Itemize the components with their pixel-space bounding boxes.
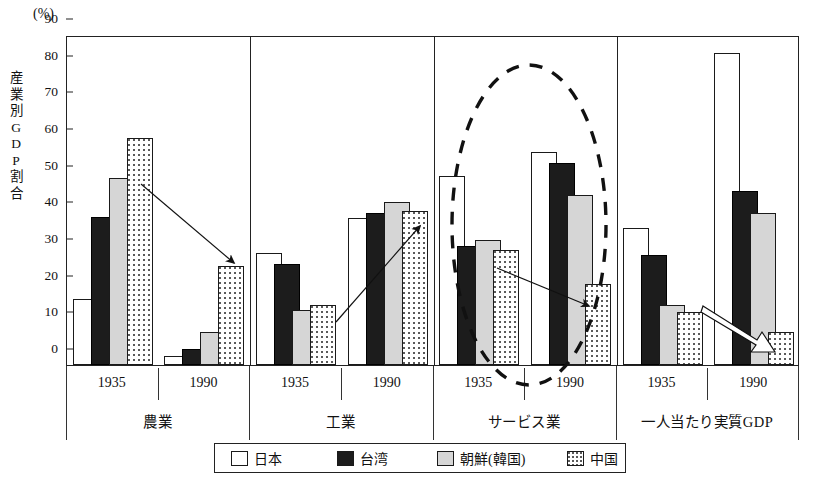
- year-tick-line: [707, 368, 708, 400]
- bar-cn: [585, 284, 611, 365]
- bar-cn: [218, 266, 244, 365]
- year-label: 1935: [98, 375, 126, 391]
- y-axis-tick-mark: [66, 55, 73, 56]
- year-tick-line: [433, 366, 434, 402]
- y-axis-tick: 10: [45, 304, 68, 320]
- y-axis-title-char: G: [6, 120, 26, 137]
- year-label: 1990: [556, 375, 584, 391]
- y-axis-tick-mark: [66, 165, 73, 166]
- y-axis-tick: 20: [45, 268, 68, 284]
- y-axis-tick-mark: [66, 129, 73, 130]
- y-axis-title-char: 産: [6, 70, 26, 87]
- year-tick-line: [158, 368, 159, 400]
- year-label: 1990: [189, 375, 217, 391]
- year-label: 1935: [648, 375, 676, 391]
- y-axis-tick: 0: [51, 341, 67, 357]
- legend-label: 台湾: [360, 448, 388, 468]
- y-axis-title-char: 別: [6, 103, 26, 120]
- year-label: 1935: [281, 375, 309, 391]
- y-axis-tick: 50: [45, 158, 68, 174]
- category-label: 農業: [143, 410, 172, 431]
- plot-area: 0102030405060708090: [66, 36, 799, 366]
- year-label: 1935: [464, 375, 492, 391]
- legend-label: 朝鮮(韓国): [460, 448, 525, 468]
- y-axis-tick: 60: [45, 121, 68, 137]
- year-axis-band: 19351990193519901935199019351990: [66, 366, 799, 402]
- y-axis-tick-mark: [66, 19, 73, 20]
- year-tick-line: [798, 366, 799, 402]
- y-axis-tick: 30: [45, 231, 68, 247]
- legend-label: 日本: [254, 448, 282, 468]
- legend-swatch-kr: [437, 451, 454, 466]
- category-separator-line: [66, 402, 67, 440]
- y-axis-title-char: 合: [6, 186, 26, 203]
- y-axis-tick: 80: [45, 48, 68, 64]
- bar-cn: [677, 312, 703, 365]
- legend-item[interactable]: 朝鮮(韓国): [437, 448, 525, 468]
- legend-swatch-tw: [337, 451, 354, 466]
- bars-layer: [67, 37, 798, 365]
- category-separator-line: [616, 402, 617, 440]
- y-axis-title-char: 業: [6, 87, 26, 104]
- y-axis-title-char: D: [6, 136, 26, 153]
- category-label: サービス業: [488, 410, 561, 431]
- year-tick-line: [616, 366, 617, 402]
- y-axis-tick-mark: [66, 275, 73, 276]
- category-label: 一人当たり実質GDP: [641, 410, 773, 431]
- bar-cn: [768, 332, 794, 365]
- bar-cn: [310, 305, 336, 366]
- legend-item[interactable]: 台湾: [337, 448, 388, 468]
- y-axis-title-char: P: [6, 153, 26, 170]
- bar-cn: [402, 211, 428, 365]
- category-separator-line: [433, 402, 434, 440]
- y-axis-tick-mark: [66, 202, 73, 203]
- y-axis-tick: 70: [45, 84, 68, 100]
- legend-item[interactable]: 中国: [567, 448, 618, 468]
- y-axis-tick-mark: [66, 239, 73, 240]
- year-tick-line: [66, 366, 67, 402]
- year-tick-line: [524, 368, 525, 400]
- y-axis-tick: 90: [45, 11, 68, 27]
- category-separator-line: [249, 402, 250, 440]
- y-axis-tick: 40: [45, 194, 68, 210]
- legend-item[interactable]: 日本: [231, 448, 282, 468]
- y-axis-title-char: 割: [6, 169, 26, 186]
- bar-cn: [493, 250, 519, 366]
- year-tick-line: [249, 366, 250, 402]
- y-axis-tick-mark: [66, 92, 73, 93]
- year-label: 1990: [373, 375, 401, 391]
- bar-cn: [127, 138, 153, 365]
- group-separator: [617, 37, 618, 365]
- legend-swatch-jp: [231, 451, 248, 466]
- group-separator: [250, 37, 251, 365]
- chart-legend: 日本台湾朝鮮(韓国)中国: [214, 443, 626, 473]
- category-label: 工業: [326, 410, 355, 431]
- y-axis-title: 産業別GDP割合: [6, 70, 26, 202]
- category-axis-band: 農業工業サービス業一人当たり実質GDP: [66, 402, 799, 440]
- year-label: 1990: [739, 375, 767, 391]
- year-tick-line: [341, 368, 342, 400]
- chart-root: (%) 産業別GDP割合 0102030405060708090 1935199…: [0, 0, 817, 480]
- category-separator-line: [798, 402, 799, 440]
- legend-swatch-cn: [567, 451, 584, 466]
- legend-label: 中国: [590, 448, 618, 468]
- group-separator: [434, 37, 435, 365]
